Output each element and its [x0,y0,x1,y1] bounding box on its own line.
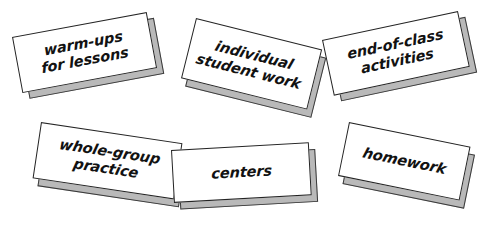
card-face: warm-ups for lessons [12,12,157,93]
card-face: centers [171,142,312,203]
card-label: homework [360,145,448,178]
label-card-warm-ups[interactable]: warm-ups for lessons [12,12,157,93]
label-card-whole-group-practice[interactable]: whole-group practice [33,122,183,200]
label-card-board: warm-ups for lessons individual student … [0,0,492,241]
label-card-end-of-class-activities[interactable]: end-of-class activities [322,11,470,96]
label-card-homework[interactable]: homework [338,122,470,201]
card-label: centers [211,162,272,183]
card-label: warm-ups for lessons [39,27,129,77]
card-face: homework [338,122,470,201]
card-label: end-of-class activities [346,26,446,80]
label-card-centers[interactable]: centers [171,142,312,203]
card-label: individual student work [194,35,309,93]
card-face: individual student work [181,18,322,110]
card-label: whole-group practice [53,137,162,185]
label-card-individual-student-work[interactable]: individual student work [181,18,322,110]
